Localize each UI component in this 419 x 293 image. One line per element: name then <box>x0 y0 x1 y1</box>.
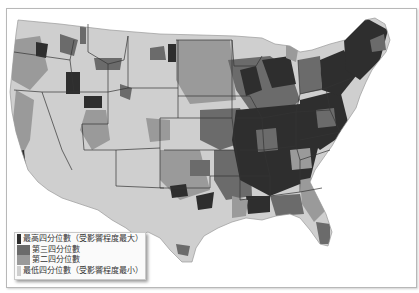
legend-label: 最低四分位數（受影響程度最小） <box>23 266 143 276</box>
legend-label: 第二四分位數 <box>32 255 80 265</box>
map-legend: 最高四分位數（受影響程度最大） 第三四分位數 第二四分位數 最低四分位數（受影響… <box>14 232 146 280</box>
legend-swatch <box>17 245 30 255</box>
legend-item-lowest-quartile: 最低四分位數（受影響程度最小） <box>17 266 143 277</box>
legend-label: 第三四分位數 <box>32 245 80 255</box>
legend-swatch <box>17 255 30 265</box>
legend-label: 最高四分位數（受影響程度最大） <box>23 234 143 244</box>
legend-swatch <box>17 266 21 276</box>
legend-item-third-quartile: 第三四分位數 <box>17 245 143 256</box>
legend-item-highest-quartile: 最高四分位數（受影響程度最大） <box>17 234 143 245</box>
legend-swatch <box>17 234 21 244</box>
legend-item-second-quartile: 第二四分位數 <box>17 255 143 266</box>
